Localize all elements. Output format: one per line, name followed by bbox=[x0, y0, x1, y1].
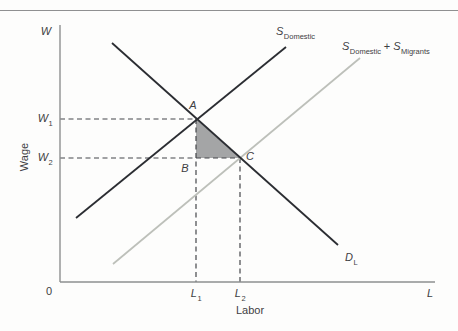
point-a-label: A bbox=[189, 100, 196, 111]
l1-tick-label: L1 bbox=[191, 288, 201, 299]
l2-tick-label: L2 bbox=[235, 288, 245, 299]
supply-domestic-curve bbox=[76, 47, 286, 218]
point-c-label: C bbox=[246, 151, 254, 162]
supply-domestic-label: SDomestic bbox=[276, 26, 315, 37]
supply-combined-label: SDomestic + SMigrants bbox=[342, 41, 429, 52]
demand-label: DL bbox=[345, 252, 357, 263]
point-b-label: B bbox=[181, 163, 188, 174]
y-axis-symbol-label: W bbox=[41, 26, 51, 37]
x-axis-title: Labor bbox=[236, 305, 264, 316]
x-axis-symbol-label: L bbox=[427, 288, 433, 299]
origin-label: 0 bbox=[46, 286, 52, 297]
supply-combined-curve bbox=[113, 58, 360, 264]
demand-curve bbox=[112, 43, 338, 245]
supply-demand-figure: W L 0 Wage Labor W1 W2 L1 L2 A B C SDome… bbox=[0, 0, 458, 331]
w1-tick-label: W1 bbox=[38, 113, 53, 124]
y-axis-title: Wage bbox=[19, 143, 30, 171]
w2-tick-label: W2 bbox=[38, 152, 53, 163]
